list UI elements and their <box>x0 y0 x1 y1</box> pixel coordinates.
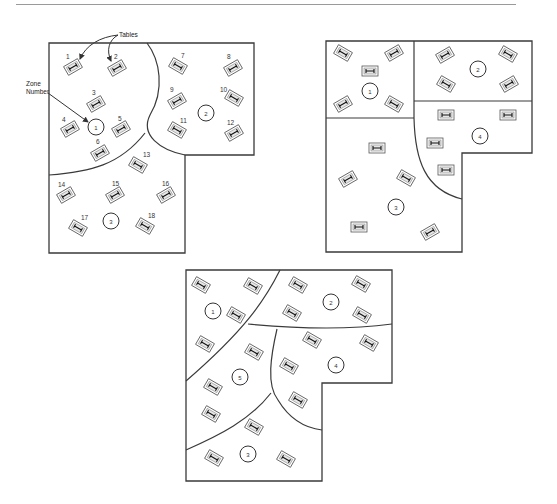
zone-number-arrow <box>48 93 88 122</box>
table-icon <box>157 187 176 204</box>
layout-b-four-zones: 1234 <box>326 41 532 252</box>
table-icon <box>224 60 243 77</box>
table-icon <box>112 121 131 138</box>
zone-boundary <box>414 118 462 199</box>
table-icon <box>352 276 371 293</box>
table-icon <box>385 96 404 113</box>
table-icon <box>369 143 385 153</box>
table-icon <box>168 122 187 139</box>
zone-boundary <box>186 393 271 450</box>
table-icon <box>205 450 224 467</box>
table-icon <box>168 93 187 110</box>
layout-a-three-zones: 123456789101112131415161718123 <box>49 43 254 253</box>
table-icon <box>360 335 379 352</box>
table-number: 7 <box>181 52 185 59</box>
table-icon <box>91 145 110 162</box>
seating-zone-diagrams: Tables Zone Number 123456789101112131415… <box>0 0 557 504</box>
zone-number-label-line1: Zone <box>26 80 41 87</box>
table-icon <box>192 277 211 294</box>
zone-marker: 5 <box>232 369 248 385</box>
table-number: 8 <box>227 53 231 60</box>
table-icon <box>204 379 223 396</box>
table-number: 11 <box>180 117 187 124</box>
table-number: 12 <box>227 119 235 126</box>
table-icon <box>61 121 80 138</box>
table-icon <box>303 332 322 349</box>
table-number: 5 <box>118 115 122 122</box>
table-icon <box>277 451 296 468</box>
table-number: 2 <box>114 53 118 60</box>
table-icon <box>385 45 404 62</box>
table-icon <box>87 96 106 113</box>
table-icon <box>334 96 353 113</box>
floor-outline <box>186 270 392 481</box>
floor-outline <box>49 43 254 253</box>
tables-callout: Tables <box>80 31 139 61</box>
table-icon <box>438 165 454 175</box>
table-icon <box>106 187 125 204</box>
table-number: 6 <box>96 138 100 145</box>
zone-boundary <box>248 324 392 328</box>
table-number: 4 <box>62 116 66 123</box>
table-icon <box>227 307 246 324</box>
table-icon <box>500 110 516 120</box>
zone-marker: 2 <box>323 294 339 310</box>
table-icon <box>136 218 155 235</box>
zone-marker: 1 <box>88 119 104 135</box>
zone-marker: 4 <box>328 357 344 373</box>
table-icon <box>202 406 221 423</box>
table-icon <box>289 277 308 294</box>
table-icon <box>196 336 215 353</box>
table-icon <box>244 278 263 295</box>
table-icon <box>57 187 76 204</box>
table-icon <box>499 46 518 63</box>
zone-marker: 3 <box>240 446 256 462</box>
table-icon <box>69 220 88 237</box>
table-icon <box>283 305 302 322</box>
table-icon <box>397 170 416 187</box>
zone-number-callout: Zone Number <box>26 80 88 122</box>
table-number: 9 <box>170 86 174 93</box>
table-icon <box>225 125 244 142</box>
table-icon <box>280 358 299 375</box>
zone-marker: 2 <box>198 105 214 121</box>
table-icon <box>353 307 372 324</box>
table-icon <box>245 419 264 436</box>
zone-marker: 2 <box>470 61 486 77</box>
table-icon <box>436 47 455 64</box>
table-number: 17 <box>81 214 89 221</box>
table-number: 1 <box>66 53 70 60</box>
table-icon <box>438 110 454 120</box>
table-number: 14 <box>58 181 66 188</box>
table-number: 18 <box>148 212 156 219</box>
zone-marker: 4 <box>472 128 488 144</box>
table-icon <box>334 45 353 62</box>
table-icon <box>421 224 440 241</box>
table-icon <box>351 222 367 232</box>
table-icon <box>289 392 308 409</box>
layouts-group: 123456789101112131415161718123123412345 <box>49 41 532 481</box>
zone-marker: 3 <box>103 213 119 229</box>
table-icon <box>245 344 264 361</box>
table-icon <box>108 60 127 77</box>
table-icon <box>129 157 148 174</box>
table-icon <box>225 90 244 107</box>
table-number: 3 <box>92 89 96 96</box>
table-number: 10 <box>220 86 228 93</box>
zone-marker: 1 <box>205 303 221 319</box>
zone-marker: 1 <box>362 83 378 99</box>
table-icon <box>427 138 443 148</box>
tables-arrow-1 <box>80 35 118 59</box>
zone-marker: 3 <box>388 199 404 215</box>
table-icon <box>500 76 519 93</box>
table-icon <box>437 76 456 93</box>
table-number: 13 <box>143 151 151 158</box>
layout-c-five-zones: 12345 <box>186 270 392 481</box>
table-number: 16 <box>162 180 170 187</box>
table-icon <box>169 58 188 75</box>
table-number: 15 <box>112 180 120 187</box>
tables-label: Tables <box>119 31 139 38</box>
zone-number-label-line2: Number <box>26 88 50 95</box>
table-icon <box>362 66 378 76</box>
table-icon <box>339 171 358 188</box>
